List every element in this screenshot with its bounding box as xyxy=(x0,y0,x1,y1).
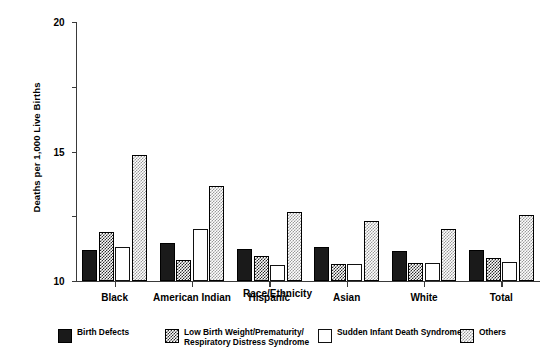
y-tick-mark: 5 xyxy=(72,216,77,217)
legend-item[interactable]: Sudden Infant Death Syndrome xyxy=(318,328,462,343)
bar xyxy=(132,155,147,281)
y-axis-title: Deaths per 1,000 Live Births xyxy=(31,28,42,268)
bar xyxy=(237,249,252,281)
bar xyxy=(270,265,285,281)
legend-item[interactable]: Low Birth Weight/Prematurity/ Respirator… xyxy=(165,328,309,347)
bar xyxy=(364,221,379,281)
bar xyxy=(314,247,329,281)
bar xyxy=(160,243,175,281)
bar xyxy=(331,264,346,281)
x-tick-mark xyxy=(347,281,348,287)
legend-swatch-icon xyxy=(460,329,474,343)
legend-swatch-icon xyxy=(165,329,179,343)
bar xyxy=(519,215,534,281)
x-tick-mark xyxy=(115,281,116,287)
y-tick-mark: 20 xyxy=(72,22,77,23)
bar xyxy=(486,258,501,281)
x-tick-mark xyxy=(424,281,425,287)
y-tick-mark: 10 xyxy=(72,152,77,153)
x-axis-line xyxy=(76,281,540,282)
bar xyxy=(502,262,517,281)
y-tick-label: 15 xyxy=(53,146,64,157)
bar xyxy=(287,212,302,281)
legend-label: Low Birth Weight/Prematurity/ Respirator… xyxy=(184,328,309,347)
legend-swatch-icon xyxy=(58,329,72,343)
y-tick-label: 10 xyxy=(53,276,64,287)
x-tick-mark xyxy=(269,281,270,287)
bar xyxy=(176,260,191,281)
bar xyxy=(425,263,440,281)
bar xyxy=(99,232,114,281)
bar-chart-figure: Deaths per 1,000 Live Births 05101520 Bl… xyxy=(0,0,555,364)
bar xyxy=(441,229,456,281)
legend-label: Others xyxy=(479,328,506,338)
legend-label: Birth Defects xyxy=(77,328,129,338)
bar xyxy=(209,186,224,281)
plot-area: 05101520 BlackAmerican IndianHispanicAsi… xyxy=(76,22,540,281)
y-tick-mark: 0 xyxy=(72,281,77,282)
x-tick-mark xyxy=(501,281,502,287)
bar xyxy=(193,229,208,281)
legend-item[interactable]: Birth Defects xyxy=(58,328,129,343)
y-tick-mark: 15 xyxy=(72,87,77,88)
chart-legend: Birth DefectsLow Birth Weight/Prematurit… xyxy=(0,322,555,356)
x-axis-title: Race/Ethnicity xyxy=(0,288,555,299)
bar xyxy=(115,247,130,281)
legend-item[interactable]: Others xyxy=(460,328,506,343)
bar xyxy=(469,250,484,281)
bar xyxy=(347,264,362,281)
bar xyxy=(254,256,269,281)
bar xyxy=(82,250,97,281)
x-tick-mark xyxy=(192,281,193,287)
bar xyxy=(408,263,423,281)
y-tick-label: 20 xyxy=(53,17,64,28)
legend-swatch-icon xyxy=(318,329,332,343)
legend-label: Sudden Infant Death Syndrome xyxy=(337,328,462,338)
bar xyxy=(392,251,407,281)
